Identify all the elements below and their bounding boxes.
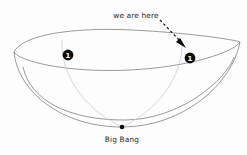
we-are-here-label: we are here — [113, 11, 159, 20]
big-bang-label: Big Bang — [105, 135, 139, 144]
annotation-arrow-head — [176, 38, 186, 48]
bowl-outer-shell — [14, 42, 240, 127]
rim-front-edge — [14, 42, 240, 71]
rim-back-edge — [14, 29, 240, 52]
observer-marker-left-number: 1 — [66, 52, 71, 60]
big-bang-point — [120, 125, 125, 130]
diagram-canvas: we are here 1 1 Big Bang — [0, 0, 247, 155]
expanding-universe-diagram: we are here 1 1 Big Bang — [0, 0, 247, 155]
observer-marker-right-number: 1 — [188, 55, 193, 63]
worldline-right — [122, 40, 182, 127]
